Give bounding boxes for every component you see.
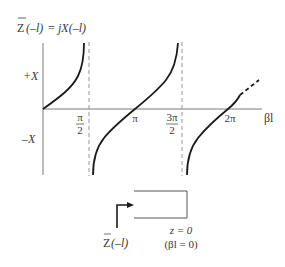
tick-num: π <box>77 111 83 123</box>
curve-dashed-extension <box>240 80 259 95</box>
tick-num: 3π <box>166 111 178 123</box>
tick-num: 2π <box>224 112 236 124</box>
title-rhs: jX(–l) <box>56 21 86 35</box>
title-z: Z <box>17 21 24 35</box>
curve-branch-3 <box>187 95 240 175</box>
input-impedance-z: Z <box>103 236 110 250</box>
tick-den: 2 <box>77 124 83 136</box>
load-position-label: z = 0 <box>169 224 193 236</box>
title-equals: = <box>45 21 58 35</box>
tick-num: π <box>132 112 138 124</box>
y-pos-label: +X <box>23 69 39 83</box>
line-conductors <box>134 191 187 218</box>
shorted-line-sketch: Z (–l) z = 0 (βl = 0) <box>103 191 198 251</box>
input-impedance-arg: (–l) <box>111 236 128 250</box>
arrowhead-icon <box>127 202 134 208</box>
plot-title: Z (–l) = jX(–l) <box>17 18 86 35</box>
load-phase-label: (βl = 0) <box>164 238 198 251</box>
tick-pi-over-2: π 2 <box>76 111 84 136</box>
title-lhs-arg: (–l) <box>26 21 43 35</box>
tick-3pi-over-2: 3π 2 <box>166 111 178 136</box>
input-arrow <box>117 205 130 228</box>
tick-pi: π <box>132 112 138 124</box>
x-axis-label: βl <box>264 111 274 125</box>
curve-branch-1 <box>43 43 84 109</box>
tick-2pi: 2π <box>224 112 236 124</box>
y-neg-label: –X <box>21 132 36 146</box>
tick-den: 2 <box>169 124 175 136</box>
impedance-plot: Z (–l) = jX(–l) +X –X π 2 π 3π 2 2π βl Z <box>0 0 285 267</box>
